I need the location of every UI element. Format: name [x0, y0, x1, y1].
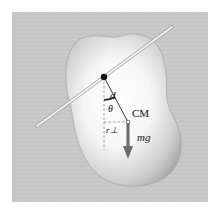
center-of-mass-point: [126, 120, 130, 124]
label-weight-force: mg⃗: [137, 132, 159, 143]
pivot-point: [101, 74, 107, 80]
label-perpendicular-distance: r⊥: [106, 126, 118, 135]
label-distance: d: [110, 90, 116, 101]
label-angle: θ: [108, 104, 113, 114]
label-center-of-mass: CM: [132, 108, 149, 119]
